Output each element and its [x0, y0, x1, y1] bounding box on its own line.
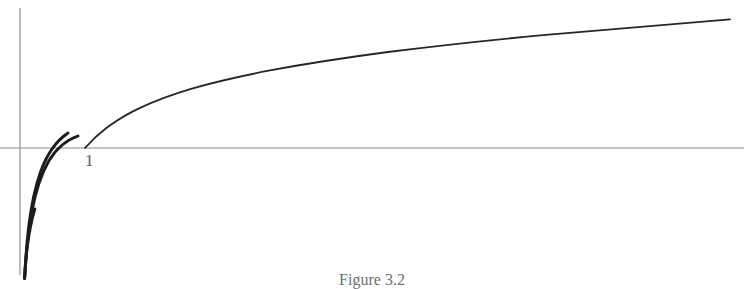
- log-curve-upper-branch: [85, 19, 730, 148]
- log-curve-lower-tail: [25, 133, 68, 279]
- x-intercept-tick-label: 1: [85, 152, 94, 169]
- figure-caption: Figure 3.2: [0, 271, 744, 289]
- log-curve-steep-segment: [25, 136, 78, 279]
